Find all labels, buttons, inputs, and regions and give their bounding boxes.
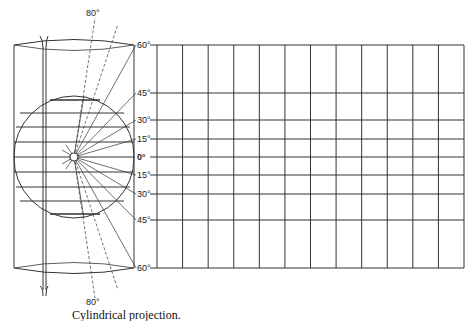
latitude-label: 15° <box>137 170 151 180</box>
projection-grid <box>150 45 464 268</box>
latitude-label: 30° <box>137 115 151 125</box>
bottom-angle-label: 80° <box>86 297 100 307</box>
cylindrical-projection-diagram: 60°45°30°15°0°15°30°45°60° 80° 80° Cylin… <box>0 0 475 321</box>
latitude-label: 0° <box>137 152 146 162</box>
latitude-label: 45° <box>137 88 151 98</box>
latitude-label: 60° <box>137 263 151 273</box>
latitude-label: 15° <box>137 134 151 144</box>
top-angle-label: 80° <box>86 8 100 18</box>
latitude-label: 30° <box>137 189 151 199</box>
cylinder-drawing <box>14 18 136 298</box>
latitude-labels: 60°45°30°15°0°15°30°45°60° <box>137 40 151 273</box>
latitude-label: 60° <box>137 40 151 50</box>
latitude-label: 45° <box>137 215 151 225</box>
caption: Cylindrical projection. <box>72 308 181 321</box>
